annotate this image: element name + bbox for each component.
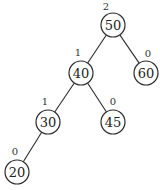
nodes-group: 502401600301450200 — [5, 1, 158, 185]
tree-node-30: 301 — [36, 96, 60, 135]
tree-node-45: 450 — [101, 96, 125, 135]
node-value: 30 — [40, 115, 57, 130]
node-value: 20 — [9, 165, 26, 180]
node-height-label: 2 — [103, 1, 109, 12]
edge-50-40 — [88, 35, 107, 63]
node-height-label: 1 — [42, 96, 48, 107]
edge-40-30 — [55, 83, 75, 112]
tree-node-50: 502 — [101, 1, 125, 38]
edge-50-60 — [120, 35, 139, 63]
tree-node-40: 401 — [69, 47, 93, 86]
node-height-label: 1 — [75, 47, 81, 58]
edge-30-20 — [23, 132, 41, 162]
node-value: 45 — [105, 115, 122, 130]
tree-svg: 502401600301450200 — [0, 0, 160, 190]
tree-node-60: 600 — [134, 48, 158, 86]
node-value: 50 — [105, 18, 122, 33]
node-height-label: 0 — [145, 48, 151, 59]
node-value: 40 — [73, 66, 90, 81]
node-height-label: 0 — [110, 96, 116, 107]
tree-diagram: 502401600301450200 — [0, 0, 160, 190]
tree-node-20: 200 — [5, 146, 29, 185]
edge-40-45 — [88, 83, 107, 112]
node-height-label: 0 — [12, 146, 18, 157]
edges-group — [23, 35, 139, 162]
node-value: 60 — [138, 66, 155, 81]
